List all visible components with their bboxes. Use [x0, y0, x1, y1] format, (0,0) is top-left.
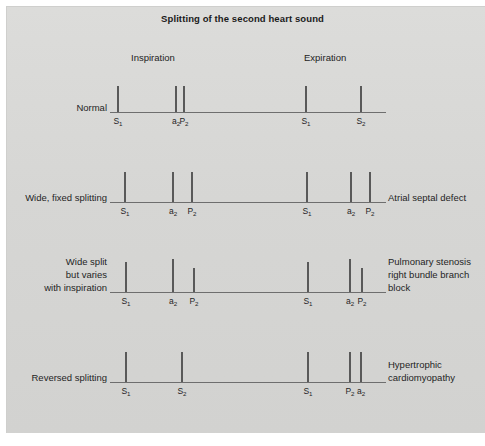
heart-sound-tick-label: a2 — [169, 296, 177, 306]
tick-label-subscript: 2 — [193, 210, 196, 217]
heart-sound-tick — [307, 352, 309, 382]
heart-sound-tick-label: P2 — [189, 296, 198, 306]
heart-sound-tick — [181, 352, 183, 382]
heart-sound-tick — [175, 86, 177, 112]
tick-label-subscript: 1 — [307, 120, 310, 127]
heart-sound-tick — [193, 268, 195, 292]
heart-sound-tick — [117, 86, 119, 112]
heart-sound-tick-label: a2 — [346, 296, 354, 306]
heart-sound-tick — [307, 262, 309, 292]
heart-sound-tick-label: P2 — [345, 386, 354, 396]
heart-sound-tick-label: a2 — [169, 206, 177, 216]
tick-label-subscript: 2 — [174, 210, 177, 217]
tick-label-subscript: 1 — [309, 390, 312, 397]
phase-header-expiration: Expiration — [304, 52, 346, 63]
heart-sound-tick — [360, 86, 362, 112]
tick-label-subscript: 1 — [127, 300, 130, 307]
heart-sound-tick — [124, 172, 126, 202]
heart-sound-tick — [360, 352, 362, 382]
tick-label-base: P — [189, 296, 195, 306]
tick-label-base: S — [113, 116, 119, 126]
figure-title: Splitting of the second heart sound — [0, 13, 485, 24]
heart-sound-tick-label: S1 — [303, 296, 312, 306]
tick-label-subscript: 1 — [309, 300, 312, 307]
tick-label-base: P — [357, 296, 363, 306]
heart-sound-tick-label: a2 — [357, 386, 365, 396]
tick-label-subscript: 2 — [371, 210, 374, 217]
tick-label-subscript: 1 — [119, 120, 122, 127]
tick-label-base: P — [345, 386, 351, 396]
heart-sound-tick-label: S1 — [121, 386, 130, 396]
baseline-axis — [110, 202, 386, 203]
tick-label-subscript: 1 — [127, 390, 130, 397]
heart-sound-tick — [183, 86, 185, 112]
baseline-axis — [110, 292, 386, 293]
heart-sound-tick-label: S1 — [303, 386, 312, 396]
tick-label-base: S — [121, 386, 127, 396]
tick-label-subscript: 2 — [183, 390, 186, 397]
heart-sound-tick-label: S1 — [121, 296, 130, 306]
heart-sound-tick — [349, 259, 351, 292]
baseline-axis — [110, 112, 386, 113]
heart-sound-tick — [305, 86, 307, 112]
heart-sound-tick — [191, 172, 193, 202]
heart-sound-tick — [172, 259, 174, 292]
heart-sound-tick-label: P2 — [187, 206, 196, 216]
heart-sound-splitting-figure: Splitting of the second heart sound Insp… — [0, 0, 485, 446]
tick-label-base: S — [356, 116, 362, 126]
heart-sound-tick — [350, 172, 352, 202]
tick-label-base: S — [303, 386, 309, 396]
tick-label-base: S — [303, 296, 309, 306]
heart-sound-tick-label: S1 — [301, 116, 310, 126]
baseline-axis — [110, 382, 386, 383]
phase-header-inspiration: Inspiration — [131, 52, 175, 63]
row-left-label: Reversed splitting — [31, 371, 107, 384]
tick-label-subscript: 2 — [195, 300, 198, 307]
heart-sound-tick-label: S1 — [113, 116, 122, 126]
tick-label-subscript: 2 — [352, 210, 355, 217]
heart-sound-tick — [172, 172, 174, 202]
row-left-label: Wide split but varies with inspiration — [44, 255, 107, 294]
heart-sound-tick — [306, 172, 308, 202]
tick-label-base: P — [179, 116, 185, 126]
heart-sound-tick — [125, 352, 127, 382]
heart-sound-tick — [125, 262, 127, 292]
row-right-label: Hypertrophic cardiomyopathy — [388, 358, 455, 384]
tick-label-base: S — [121, 296, 127, 306]
heart-sound-tick — [369, 172, 371, 202]
heart-sound-tick — [349, 352, 351, 382]
tick-label-subscript: 2 — [362, 390, 365, 397]
tick-label-base: S — [177, 386, 183, 396]
heart-sound-tick-label: P2 — [357, 296, 366, 306]
row-left-label: Normal — [76, 101, 107, 114]
tick-label-subscript: 1 — [126, 210, 129, 217]
heart-sound-tick — [361, 268, 363, 292]
tick-label-base: S — [302, 206, 308, 216]
tick-label-subscript: 1 — [308, 210, 311, 217]
heart-sound-tick-label: P2 — [365, 206, 374, 216]
row-right-label: Atrial septal defect — [388, 191, 466, 204]
tick-label-subscript: 2 — [363, 300, 366, 307]
tick-label-base: S — [301, 116, 307, 126]
heart-sound-tick-label: S2 — [356, 116, 365, 126]
tick-label-subscript: 2 — [185, 120, 188, 127]
tick-label-base: S — [120, 206, 126, 216]
tick-label-subscript: 2 — [351, 390, 354, 397]
tick-label-subscript: 2 — [362, 120, 365, 127]
heart-sound-tick-label: S1 — [120, 206, 129, 216]
tick-label-subscript: 2 — [351, 300, 354, 307]
heart-sound-tick-label: a2 — [347, 206, 355, 216]
heart-sound-tick-label: S1 — [302, 206, 311, 216]
tick-label-base: P — [187, 206, 193, 216]
tick-label-subscript: 2 — [174, 300, 177, 307]
heart-sound-tick-label: S2 — [177, 386, 186, 396]
heart-sound-tick-label: P2 — [179, 116, 188, 126]
row-right-label: Pulmonary stenosis right bundle branch b… — [388, 255, 471, 294]
row-left-label: Wide, fixed splitting — [25, 191, 107, 204]
tick-label-base: P — [365, 206, 371, 216]
